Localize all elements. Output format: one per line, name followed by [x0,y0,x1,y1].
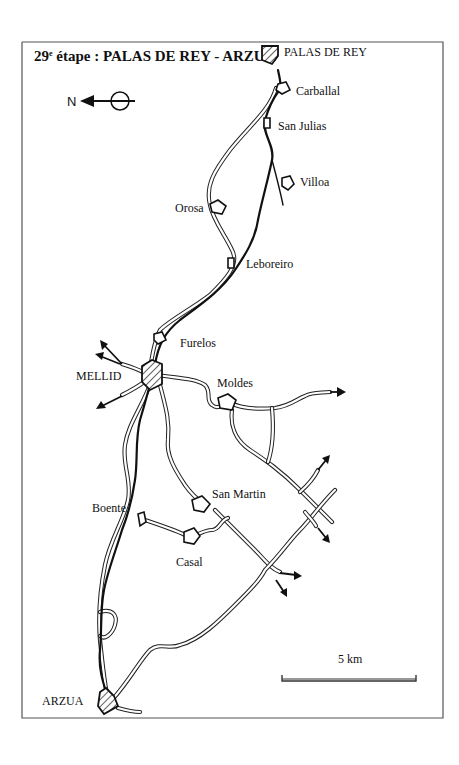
village-marker-boente [138,512,146,526]
town-marker-palas-de-rey [262,46,278,64]
town-marker-arzua [98,688,118,714]
village-marker-leboreiro [228,258,234,268]
village-marker-san-martin [192,496,210,512]
label-mellid: MELLID [76,369,122,383]
label-san-julias: San Julias [278,119,327,133]
village-marker-casal [184,528,200,544]
village-marker-villoa [282,176,294,190]
label-furelos: Furelos [180,336,216,350]
label-carballal: Carballal [296,84,341,98]
route-map: 29e étape : PALAS DE REY - ARZUA N [0,0,459,765]
scale-label: 5 km [338,652,363,666]
pilgrim-route [100,70,283,698]
village-marker-san-julias [264,118,270,128]
label-san-martin: San Martin [212,487,266,501]
village-marker-carballal [276,82,290,94]
label-arzua: ARZUA [42,694,84,708]
label-orosa: Orosa [175,201,204,215]
map-title: 29e étape : PALAS DE REY - ARZUA [34,48,276,64]
town-marker-mellid [142,360,162,390]
label-palas-de-rey: PALAS DE REY [284,45,367,59]
village-marker-moldes [218,394,236,410]
label-casal: Casal [176,555,203,569]
label-boente: Boente [92,501,126,515]
north-label: N [67,94,76,109]
label-leboreiro: Leboreiro [246,257,293,271]
scale-bar: 5 km [282,652,416,681]
village-marker-orosa [210,200,226,214]
label-villoa: Villoa [300,175,330,189]
north-arrow-icon: N [67,92,135,110]
village-marker-furelos [154,332,166,344]
label-moldes: Moldes [217,376,253,390]
